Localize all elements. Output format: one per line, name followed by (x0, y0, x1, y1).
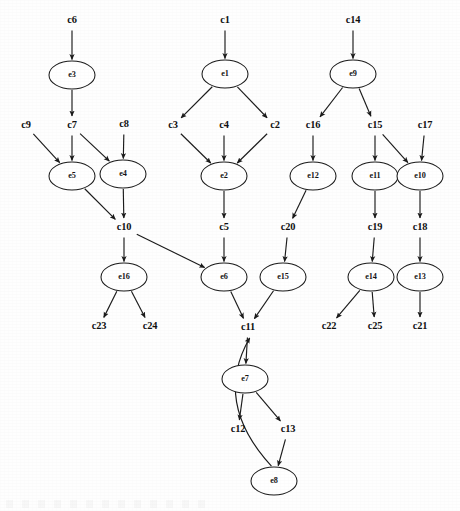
condition-label-c23[interactable]: c23 (92, 320, 107, 331)
edge-e6-to-c11 (231, 291, 244, 318)
event-label-e1: e1 (221, 69, 229, 78)
condition-label-c12[interactable]: c12 (231, 423, 246, 434)
edge-c10-to-e6 (137, 234, 205, 267)
event-node-e9[interactable]: e9 (330, 60, 376, 88)
edge-e9-to-c16 (320, 88, 343, 117)
edge-e7-to-c13 (256, 392, 280, 421)
event-node-e7[interactable]: e7 (222, 365, 268, 393)
event-node-e12[interactable]: e12 (290, 162, 336, 190)
condition-label-c25[interactable]: c25 (368, 320, 383, 331)
event-label-e3: e3 (68, 70, 76, 79)
condition-label-c13[interactable]: c13 (281, 423, 296, 434)
edge-e14-to-c22 (337, 290, 360, 318)
event-node-e13[interactable]: e13 (397, 263, 443, 291)
event-label-e12: e12 (307, 171, 319, 180)
event-node-e5[interactable]: e5 (49, 162, 95, 190)
condition-label-c21[interactable]: c21 (413, 320, 428, 331)
event-node-e8[interactable]: e8 (251, 467, 297, 495)
edge-e1-to-c2 (237, 87, 267, 118)
event-label-e15: e15 (277, 272, 289, 281)
edge-e5-to-c10 (85, 189, 116, 220)
edge-e14-to-c25 (372, 292, 374, 317)
condition-label-c11[interactable]: c11 (241, 321, 255, 332)
event-node-e15[interactable]: e15 (260, 263, 306, 291)
condition-label-c3[interactable]: c3 (168, 119, 178, 130)
edge-c13-to-e8 (278, 439, 285, 465)
event-label-e13: e13 (414, 272, 426, 281)
condition-label-c16[interactable]: c16 (306, 119, 321, 130)
event-node-e3[interactable]: e3 (49, 61, 95, 89)
condition-label-c14[interactable]: c14 (346, 14, 361, 25)
edge-c19-to-e14 (372, 237, 374, 261)
event-node-e16[interactable]: e16 (101, 263, 147, 291)
diagram-canvas: e3e5e4e16e1e2e6e15e9e12e11e10e14e13e7e8c… (0, 0, 460, 511)
edge-e16-to-c24 (131, 291, 145, 317)
condition-label-c15[interactable]: c15 (368, 119, 383, 130)
condition-label-c5[interactable]: c5 (219, 221, 229, 232)
edge-e1-to-c3 (181, 87, 212, 118)
event-node-e11[interactable]: e11 (352, 162, 398, 190)
edge-c9-to-e5 (33, 134, 59, 163)
event-label-e14: e14 (365, 272, 377, 281)
event-node-e4[interactable]: e4 (100, 160, 146, 188)
event-label-e2: e2 (220, 171, 228, 180)
edge-e16-to-c23 (104, 291, 117, 317)
condition-label-c17[interactable]: c17 (418, 119, 433, 130)
event-label-e7: e7 (241, 374, 249, 383)
event-node-e1[interactable]: e1 (202, 60, 248, 88)
condition-label-c18[interactable]: c18 (413, 221, 428, 232)
condition-label-c2[interactable]: c2 (270, 119, 280, 130)
event-node-e10[interactable]: e10 (397, 162, 443, 190)
condition-label-c6[interactable]: c6 (67, 14, 77, 25)
event-label-e5: e5 (68, 171, 76, 180)
edge-e8-to-c11 (235, 338, 271, 466)
edge-layer (33, 31, 424, 467)
scan-artifact-smudge (6, 500, 206, 508)
condition-label-c19[interactable]: c19 (368, 221, 383, 232)
edge-c2-to-e2 (237, 134, 267, 163)
edge-c17-to-e10 (422, 135, 425, 160)
edge-c20-to-e15 (285, 237, 287, 261)
event-node-e6[interactable]: e6 (201, 263, 247, 291)
condition-label-c24[interactable]: c24 (143, 320, 158, 331)
edge-e15-to-c11 (254, 291, 273, 319)
edge-e12-to-c20 (293, 190, 306, 218)
event-label-e10: e10 (414, 171, 426, 180)
edge-c15-to-e10 (383, 134, 408, 162)
condition-label-c8[interactable]: c8 (119, 118, 129, 129)
event-label-e16: e16 (118, 272, 130, 281)
event-label-e6: e6 (220, 272, 228, 281)
event-label-e8: e8 (270, 476, 278, 485)
condition-label-c7[interactable]: c7 (67, 119, 77, 130)
condition-label-c20[interactable]: c20 (281, 221, 296, 232)
node-layer: e3e5e4e16e1e2e6e15e9e12e11e10e14e13e7e8c… (21, 14, 443, 495)
condition-label-c10[interactable]: c10 (117, 221, 132, 232)
graph-svg: e3e5e4e16e1e2e6e15e9e12e11e10e14e13e7e8c… (0, 0, 460, 511)
event-node-e14[interactable]: e14 (348, 263, 394, 291)
condition-label-c1[interactable]: c1 (220, 14, 230, 25)
event-node-e2[interactable]: e2 (201, 162, 247, 190)
edge-e4-to-c10 (123, 189, 124, 218)
event-label-e11: e11 (369, 171, 380, 180)
condition-label-c9[interactable]: c9 (21, 119, 31, 130)
event-label-e9: e9 (349, 69, 357, 78)
edge-c7-to-e4 (80, 134, 109, 162)
condition-label-c4[interactable]: c4 (219, 119, 229, 130)
condition-label-c22[interactable]: c22 (322, 320, 337, 331)
edge-e9-to-c15 (359, 89, 371, 117)
event-label-e4: e4 (119, 169, 127, 178)
edge-c3-to-e2 (181, 134, 211, 163)
